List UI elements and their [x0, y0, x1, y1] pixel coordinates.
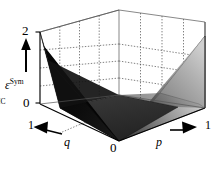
- origin-tick: 0: [110, 141, 117, 154]
- z-axis-label: εSym HC: [5, 79, 24, 103]
- z-axis-subscript: HC: [0, 97, 5, 106]
- figure-container: 2 0 εSym HC 1 q 0 p 1: [0, 0, 221, 169]
- z-axis-tick-bottom: 0: [23, 96, 30, 109]
- z-direction-arrow: [21, 38, 31, 72]
- z-axis-superscript: Sym: [10, 77, 24, 86]
- axis-ticks: [36, 32, 41, 103]
- p-axis-label: p: [156, 136, 162, 148]
- q-axis-label: q: [64, 136, 70, 148]
- p-axis-tick-max: 1: [205, 119, 211, 131]
- z-axis-tick-top: 2: [22, 24, 29, 37]
- p-direction-arrow: [170, 122, 197, 134]
- q-axis-tick-max: 1: [28, 119, 34, 131]
- q-direction-arrow: [34, 122, 63, 135]
